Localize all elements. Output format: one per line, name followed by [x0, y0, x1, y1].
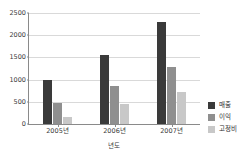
legend-item: 매출 [208, 99, 237, 111]
legend-swatch [208, 126, 215, 133]
bar-groups: 2005년2006년2007년 [29, 13, 200, 124]
x-axis-tick-label: 2007년 [160, 128, 183, 135]
bar [110, 86, 119, 124]
legend-swatch [208, 114, 215, 121]
y-axis-tick-label: 0 [22, 121, 26, 128]
legend: 매출이익고정비 [208, 99, 237, 135]
bar [63, 117, 72, 124]
y-axis-tick-label: 1500 [9, 54, 26, 61]
y-axis-tick-label: 1000 [9, 76, 26, 83]
plot-area: 05001000150020002500 2005년2006년2007년 [28, 13, 200, 125]
legend-item: 고정비 [208, 123, 237, 135]
x-axis-tick-label: 2005년 [46, 128, 69, 135]
bar [157, 22, 166, 124]
legend-label: 매출 [219, 102, 231, 109]
legend-label: 고정비 [219, 126, 237, 133]
bar [177, 92, 186, 124]
y-axis-tick-label: 500 [14, 99, 26, 106]
bar [100, 55, 109, 124]
bar [53, 103, 62, 124]
y-axis-tick-label: 2000 [9, 32, 26, 39]
bar-group: 2007년 [143, 13, 200, 124]
bar-chart: 05001000150020002500 2005년2006년2007년 년도 … [0, 0, 248, 160]
x-axis-tick-label: 2006년 [103, 128, 126, 135]
bar-group: 2006년 [86, 13, 143, 124]
bar [120, 104, 129, 124]
legend-label: 이익 [219, 114, 231, 121]
legend-swatch [208, 102, 215, 109]
x-axis-title: 년도 [28, 143, 200, 150]
y-axis-tick-label: 2500 [9, 10, 26, 17]
legend-item: 이익 [208, 111, 237, 123]
bar [43, 80, 52, 124]
bar [167, 67, 176, 124]
bar-group: 2005년 [29, 13, 86, 124]
